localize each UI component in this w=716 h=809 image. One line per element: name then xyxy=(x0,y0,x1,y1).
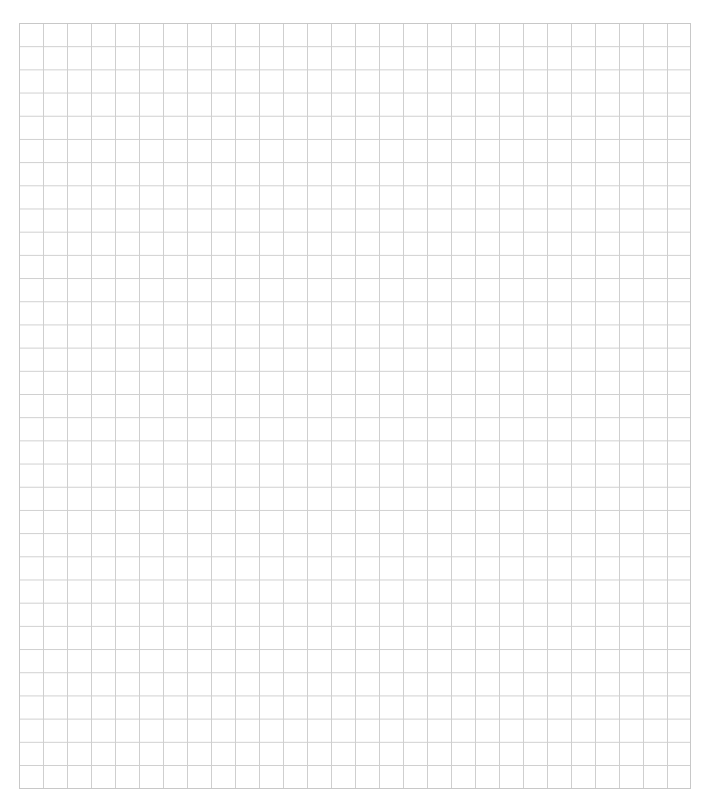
graph-paper-grid xyxy=(19,23,691,789)
